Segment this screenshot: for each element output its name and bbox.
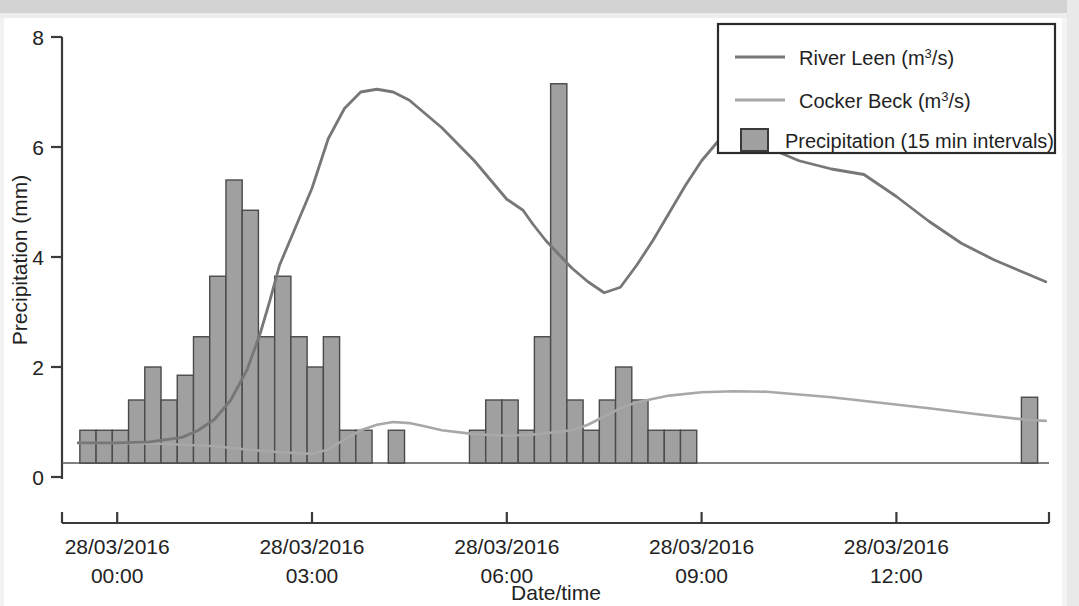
precipitation-bar [599, 400, 615, 463]
precipitation-bar [664, 430, 680, 463]
x-axis-ticks [117, 512, 896, 523]
legend-swatch-icon-precipitation [741, 129, 768, 151]
chart-legend[interactable]: River Leen (m3/s) Cocker Beck (m3/s) Pre… [718, 24, 1055, 153]
x-axis: 28/03/201600:0028/03/201603:0028/03/2016… [62, 512, 1049, 604]
precipitation-bar [258, 337, 274, 464]
precipitation-bar [616, 367, 632, 463]
precipitation-bar [356, 430, 372, 463]
precipitation-bar [112, 430, 128, 463]
precipitation-bar [307, 367, 323, 463]
precipitation-bar [648, 430, 664, 463]
legend-label-precipitation: Precipitation (15 min intervals) [785, 130, 1054, 152]
y-axis-tick-labels: 02468 [32, 26, 44, 489]
x-tick-label: 28/03/201600:00 [65, 535, 170, 587]
y-axis-title: Precipitation (mm) [8, 175, 31, 345]
x-tick-label: 28/03/201612:00 [844, 535, 949, 587]
precipitation-bar [242, 210, 258, 463]
y-tick-label: 2 [32, 356, 44, 379]
x-axis-tick-labels: 28/03/201600:0028/03/201603:0028/03/2016… [65, 535, 949, 587]
x-tick-label: 28/03/201603:00 [259, 535, 364, 587]
precipitation-bar [291, 337, 307, 464]
precipitation-bar [226, 180, 242, 463]
precipitation-bar [551, 84, 567, 464]
precipitation-bar [177, 375, 193, 463]
precipitation-bar [80, 430, 96, 463]
y-axis-ticks [51, 37, 62, 477]
y-tick-label: 6 [32, 136, 44, 159]
y-axis: 02468 Precipitation (mm) [8, 26, 62, 489]
x-tick-label: 28/03/201609:00 [649, 535, 754, 587]
legend-item-precipitation[interactable]: Precipitation (15 min intervals) [741, 129, 1054, 152]
x-axis-title: Date/time [511, 581, 601, 604]
precipitation-bar [145, 367, 161, 463]
precipitation-bar [632, 400, 648, 463]
precipitation-bar [534, 337, 550, 464]
precipitation-bar [1021, 397, 1037, 463]
precipitation-bar [275, 276, 291, 463]
y-tick-label: 8 [32, 26, 44, 49]
precipitation-bar [502, 400, 518, 463]
precipitation-bar [680, 430, 696, 463]
hydrograph-chart: 02468 Precipitation (mm) 28/03/201600:00… [0, 0, 1079, 606]
precipitation-bar [210, 276, 226, 463]
precipitation-bar [96, 430, 112, 463]
precipitation-bar [129, 400, 145, 463]
y-tick-label: 4 [32, 246, 44, 269]
precipitation-bar [583, 430, 599, 463]
chart-page: 02468 Precipitation (mm) 28/03/201600:00… [0, 0, 1079, 606]
precipitation-bar [486, 400, 502, 463]
precipitation-bar [388, 430, 404, 463]
precipitation-bar [161, 400, 177, 463]
x-tick-label: 28/03/201606:00 [454, 535, 559, 587]
y-tick-label: 0 [32, 466, 44, 489]
